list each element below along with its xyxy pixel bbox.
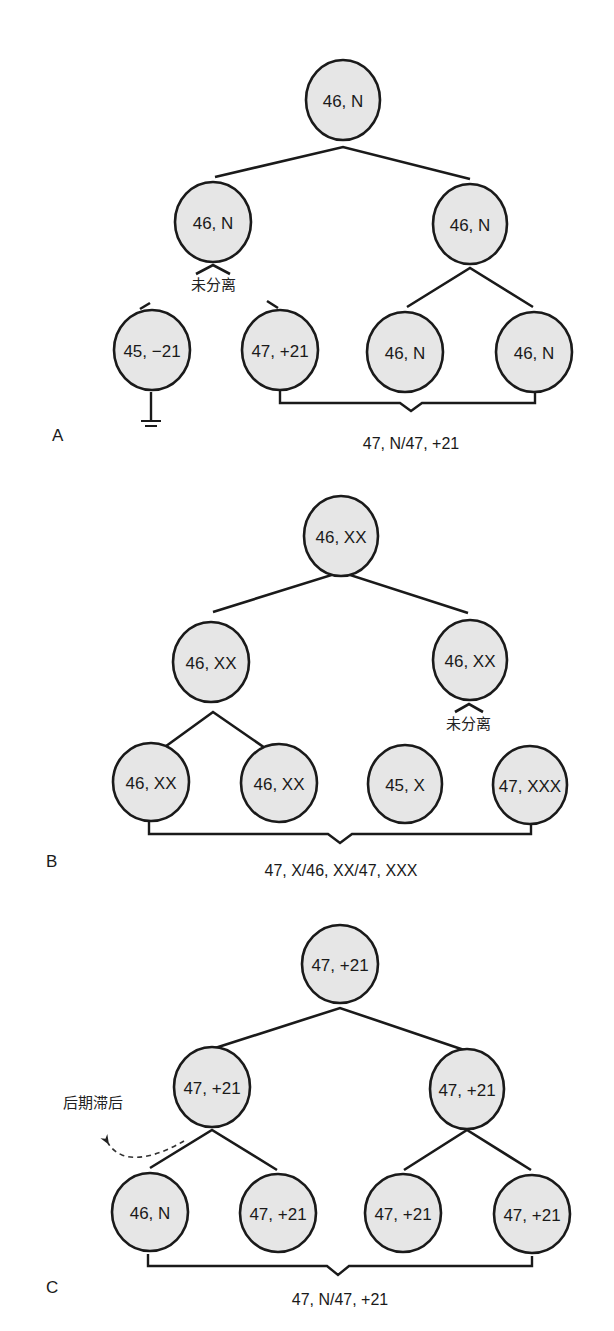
panel-letter-c: C [46,1278,58,1297]
panel-b: 46, XX 46, XX 46, XX 46, XX 46, XX 45, X… [46,496,567,879]
bracket-c [148,1254,532,1275]
svg-text:46, N: 46, N [130,1204,171,1223]
cell-b-l3-2: 46, XX [241,744,317,822]
panel-letter-b: B [46,852,57,871]
svg-text:46, N: 46, N [385,344,426,363]
cell-b-l2-right: 46, XX [433,620,507,700]
svg-text:45, −21: 45, −21 [123,342,180,361]
cell-b-l3-4: 47, XXX [493,746,567,824]
panel-c: 47, +21 47, +21 47, +21 46, N 47, +21 47… [46,925,570,1308]
svg-text:47, +21: 47, +21 [374,1205,431,1224]
edge-a-root [215,147,470,179]
ground-icon [141,392,161,426]
cell-a-l3-2: 47, +21 [242,310,318,390]
svg-text:47, +21: 47, +21 [251,342,308,361]
svg-text:47, XXX: 47, XXX [499,777,561,796]
svg-text:46, N: 46, N [193,214,234,233]
svg-text:46, XX: 46, XX [125,774,176,793]
cell-c-l3-2: 47, +21 [240,1174,316,1252]
cell-c-l2-left: 47, +21 [174,1047,250,1127]
cell-a-l3-3: 46, N [367,312,443,392]
panel-a: 46, N 46, N 46, N 45, −21 47, +21 46, N … [52,60,572,452]
panel-letter-a: A [52,426,64,445]
bracket-b [149,822,531,843]
cell-b-l2-left: 46, XX [173,622,249,702]
svg-text:47, +21: 47, +21 [311,956,368,975]
svg-text:46, XX: 46, XX [253,775,304,794]
svg-text:46, XX: 46, XX [185,654,236,673]
cell-a-root: 46, N [306,60,380,140]
svg-text:46, N: 46, N [514,344,555,363]
cell-a-l3-4: 46, N [496,312,572,392]
svg-text:46, N: 46, N [450,216,491,235]
edge-c-l2right [404,1130,531,1170]
cell-b-root: 46, XX [304,496,378,576]
cell-c-l2-right: 47, +21 [430,1049,504,1129]
result-label-a: 47, N/47, +21 [363,435,460,452]
cell-c-l3-3: 47, +21 [365,1174,441,1252]
svg-text:46, N: 46, N [323,92,364,111]
svg-text:47, +21: 47, +21 [503,1206,560,1225]
cell-b-l3-3: 45, X [368,745,442,823]
edge-c-l2left [150,1130,277,1170]
cell-a-l2-right: 46, N [433,184,507,264]
svg-text:47, +21: 47, +21 [438,1081,495,1100]
svg-text:47, +21: 47, +21 [249,1205,306,1224]
bracket-a [280,391,535,411]
edge-b-l2right-stub [455,704,483,712]
svg-text:45, X: 45, X [385,776,425,795]
svg-text:47, +21: 47, +21 [183,1079,240,1098]
cell-a-l2-left: 46, N [175,182,251,262]
edge-a-l2left-stub [196,265,230,274]
cell-c-l3-1: 46, N [112,1173,188,1251]
svg-text:46, XX: 46, XX [444,652,495,671]
edge-a-dash-left [140,303,150,309]
cell-b-l3-1: 46, XX [113,743,189,821]
mosaicism-diagram: 46, N 46, N 46, N 45, −21 47, +21 46, N … [0,0,614,1331]
edge-b-root [213,572,468,613]
nondisjunction-label-a: 未分离 [191,276,236,294]
edge-a-dash-right [267,301,278,308]
result-label-c: 47, N/47, +21 [292,1291,389,1308]
result-label-b: 47, X/46, XX/47, XXX [265,862,418,879]
cell-c-root: 47, +21 [302,925,378,1003]
svg-text:46, XX: 46, XX [315,528,366,547]
edge-a-l2right [407,268,533,307]
cell-c-l3-4: 47, +21 [494,1175,570,1253]
cell-a-l3-1: 45, −21 [114,310,190,390]
nondisjunction-label-b: 未分离 [446,715,491,733]
edge-c-root [212,1008,467,1051]
anaphase-lag-label: 后期滞后 [63,1094,123,1112]
